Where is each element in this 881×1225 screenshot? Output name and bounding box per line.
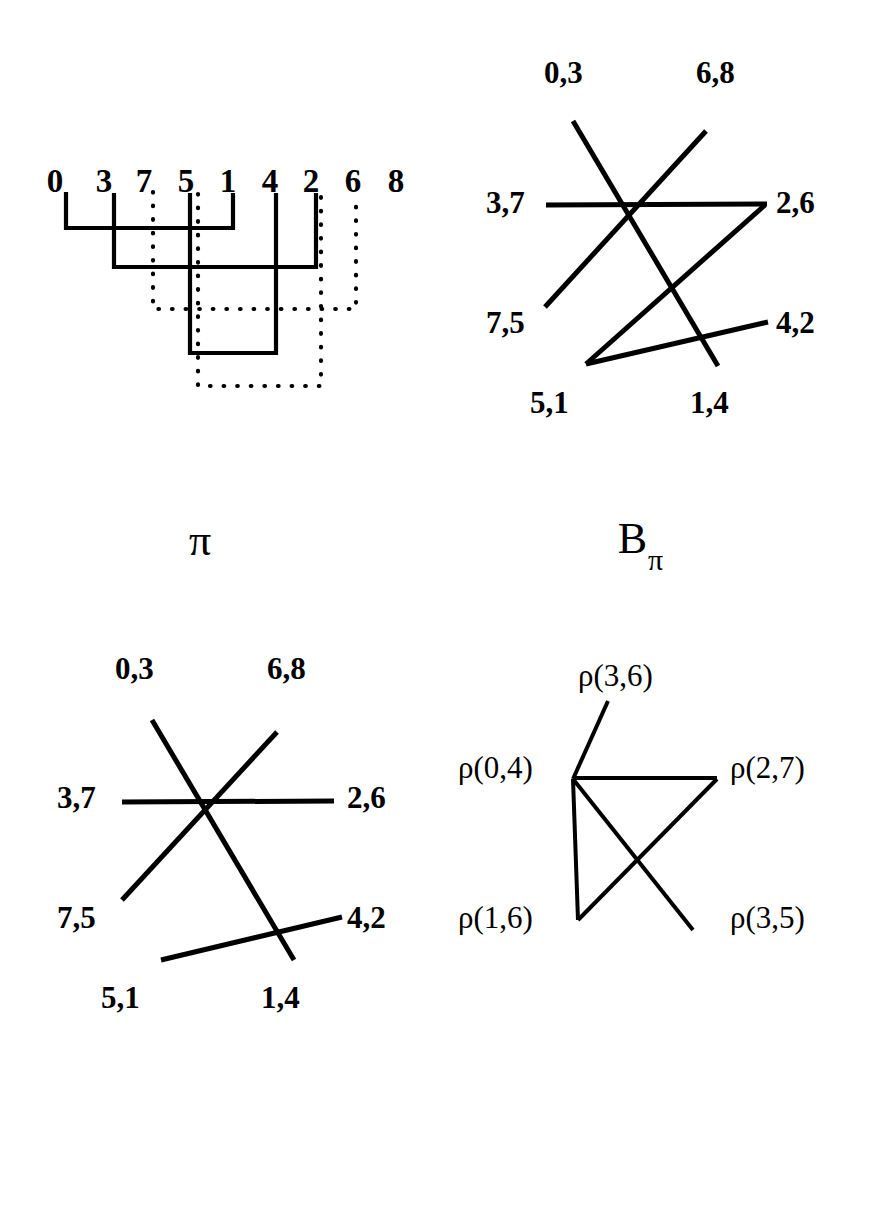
panel-m: 0,3 6,8 3,7 2,6 7,5 4,2 5,1 1,4 M xyxy=(0,610,440,1225)
b-pi-edge-51-26 xyxy=(586,205,765,364)
pi-arc-5-2 xyxy=(198,194,321,386)
panel-pi-caption: π xyxy=(0,515,400,566)
panel-i-m: ρ(3,6) ρ(0,4) ρ(2,7) ρ(1,6) ρ(3,5) IM xyxy=(440,610,881,1225)
m-edge-37-26 xyxy=(122,801,334,802)
b-pi-edge-03-14 xyxy=(573,121,718,366)
m-edge-51-42 xyxy=(161,917,342,960)
m-edge-03-14 xyxy=(152,720,294,960)
i-m-edge-r04-r36 xyxy=(573,701,608,779)
b-pi-edge-37-26 xyxy=(546,204,767,205)
panel-pi: 0 3 7 5 1 4 2 6 8 π xyxy=(0,0,440,600)
panel-pi-caption-main: π xyxy=(189,516,211,565)
panel-b-pi-caption-main: B xyxy=(618,514,647,563)
panel-b-pi-caption-sub: π xyxy=(648,543,663,576)
b-pi-edges xyxy=(440,0,881,400)
pi-arc-7-6 xyxy=(153,192,356,309)
pi-arc-0-1 xyxy=(66,192,233,228)
i-m-edge-r16-r27 xyxy=(578,779,717,920)
panel-b-pi-caption: Bπ xyxy=(440,513,840,570)
panel-b-pi: 0,3 6,8 3,7 2,6 7,5 4,2 5,1 1,4 Bπ xyxy=(440,0,881,600)
i-m-edges xyxy=(440,610,881,1010)
i-m-edge-r04-r16 xyxy=(573,779,578,920)
m-edges xyxy=(0,610,440,1010)
m-edge-68-75 xyxy=(122,732,277,900)
